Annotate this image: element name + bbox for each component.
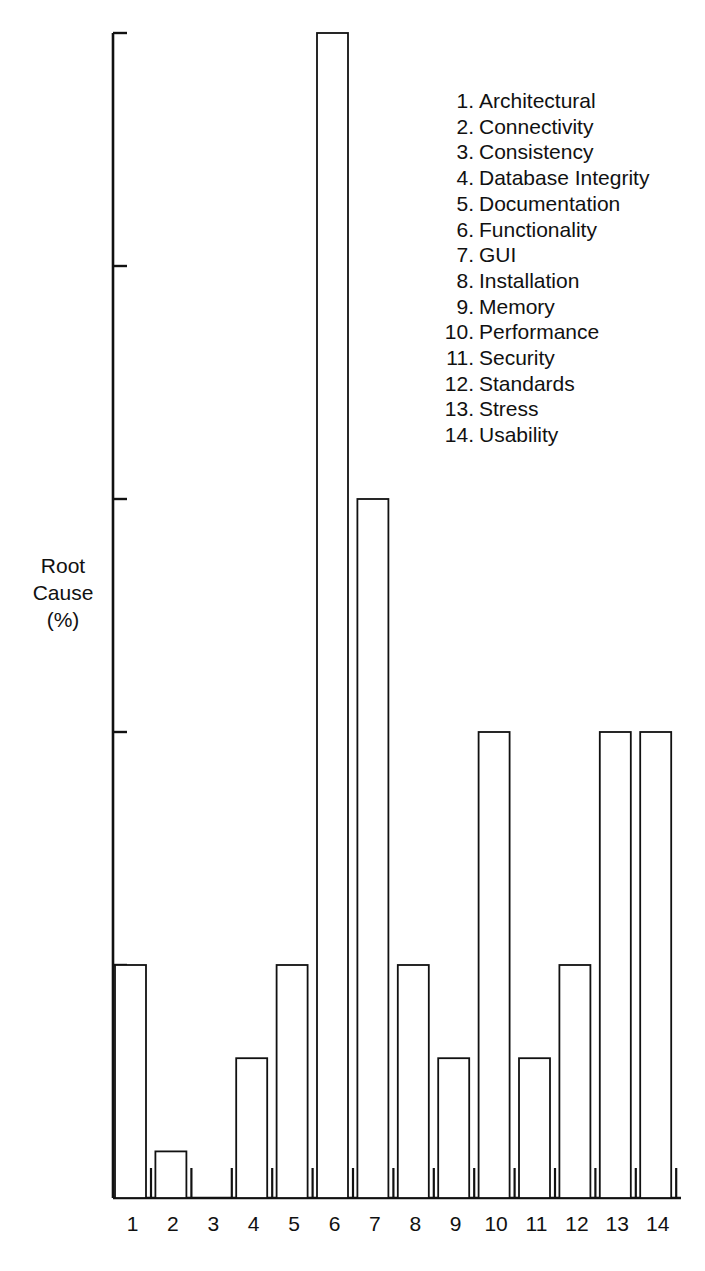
legend-item: 1.Architectural bbox=[440, 88, 649, 114]
x-tick-label: 4 bbox=[248, 1212, 260, 1235]
legend-item: 3.Consistency bbox=[440, 139, 649, 165]
legend-label: Stress bbox=[479, 397, 539, 420]
legend-item: 13.Stress bbox=[440, 396, 649, 422]
legend-label: Memory bbox=[479, 295, 555, 318]
y-axis-label-line: (%) bbox=[18, 606, 108, 633]
legend-item: 6.Functionality bbox=[440, 217, 649, 243]
y-axis-label-line: Root bbox=[18, 552, 108, 579]
legend-item: 10.Performance bbox=[440, 319, 649, 345]
legend: 1.Architectural 2.Connectivity 3.Consist… bbox=[440, 88, 649, 448]
legend-item: 4.Database Integrity bbox=[440, 165, 649, 191]
legend-label: Security bbox=[479, 346, 555, 369]
legend-label: Usability bbox=[479, 423, 558, 446]
legend-item: 9.Memory bbox=[440, 294, 649, 320]
legend-label: Standards bbox=[479, 372, 575, 395]
y-axis-label: Root Cause (%) bbox=[18, 552, 108, 633]
legend-item: 2.Connectivity bbox=[440, 114, 649, 140]
bar bbox=[236, 1058, 267, 1198]
legend-label: Connectivity bbox=[479, 115, 593, 138]
bar bbox=[519, 1058, 550, 1198]
x-tick-label: 7 bbox=[369, 1212, 381, 1235]
x-tick-label: 3 bbox=[207, 1212, 219, 1235]
bar bbox=[640, 732, 671, 1198]
legend-label: GUI bbox=[479, 243, 516, 266]
x-tick-label: 10 bbox=[484, 1212, 507, 1235]
x-tick-label: 8 bbox=[409, 1212, 421, 1235]
x-tick-label: 14 bbox=[646, 1212, 670, 1235]
x-tick-label: 9 bbox=[450, 1212, 462, 1235]
legend-label: Consistency bbox=[479, 140, 593, 163]
legend-item: 11.Security bbox=[440, 345, 649, 371]
bar bbox=[357, 499, 388, 1198]
x-tick-label: 1 bbox=[127, 1212, 139, 1235]
legend-label: Functionality bbox=[479, 218, 597, 241]
x-tick-label: 5 bbox=[288, 1212, 300, 1235]
x-tick-labels: 1234567891011121314 bbox=[127, 1212, 670, 1235]
legend-label: Documentation bbox=[479, 192, 620, 215]
x-tick-label: 11 bbox=[526, 1212, 548, 1235]
bar bbox=[317, 33, 348, 1198]
legend-label: Architectural bbox=[479, 89, 596, 112]
bar bbox=[115, 965, 146, 1198]
legend-item: 14.Usability bbox=[440, 422, 649, 448]
y-axis-label-line: Cause bbox=[18, 579, 108, 606]
bar bbox=[438, 1058, 469, 1198]
legend-label: Installation bbox=[479, 269, 579, 292]
bar bbox=[398, 965, 429, 1198]
legend-item: 7.GUI bbox=[440, 242, 649, 268]
x-tick-label: 13 bbox=[606, 1212, 629, 1235]
bar bbox=[155, 1151, 186, 1198]
x-tick-label: 6 bbox=[329, 1212, 341, 1235]
legend-item: 5.Documentation bbox=[440, 191, 649, 217]
bar bbox=[479, 732, 510, 1198]
bar bbox=[277, 965, 308, 1198]
x-tick-label: 2 bbox=[167, 1212, 179, 1235]
legend-label: Database Integrity bbox=[479, 166, 649, 189]
legend-label: Performance bbox=[479, 320, 599, 343]
bar bbox=[559, 965, 590, 1198]
legend-item: 12.Standards bbox=[440, 371, 649, 397]
x-tick-label: 12 bbox=[565, 1212, 588, 1235]
bar bbox=[600, 732, 631, 1198]
legend-item: 8.Installation bbox=[440, 268, 649, 294]
